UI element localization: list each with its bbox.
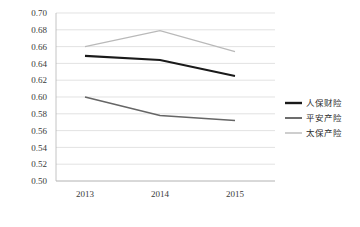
- legend-label: 人保财险: [306, 98, 342, 108]
- line-chart: 0.700.680.660.640.620.600.580.560.540.52…: [0, 0, 360, 227]
- y-tick-label: 0.54: [31, 143, 47, 153]
- legend-label: 太保产险: [306, 128, 342, 138]
- y-tick-label: 0.68: [31, 25, 47, 35]
- chart-canvas: 0.700.680.660.640.620.600.580.560.540.52…: [0, 0, 360, 227]
- y-tick-label: 0.58: [31, 109, 47, 119]
- x-tick-label: 2015: [226, 189, 245, 199]
- legend-label: 平安产险: [306, 113, 342, 123]
- x-tick-label: 2013: [76, 189, 95, 199]
- y-tick-label: 0.66: [31, 42, 47, 52]
- y-axis-tick-labels: 0.700.680.660.640.620.600.580.560.540.52…: [31, 8, 47, 186]
- y-tick-label: 0.70: [31, 8, 47, 18]
- y-tick-label: 0.64: [31, 59, 47, 69]
- x-tick-label: 2014: [151, 189, 170, 199]
- y-tick-label: 0.50: [31, 176, 47, 186]
- y-tick-label: 0.52: [31, 159, 47, 169]
- y-tick-label: 0.60: [31, 92, 47, 102]
- y-tick-label: 0.62: [31, 75, 47, 85]
- y-tick-label: 0.56: [31, 126, 47, 136]
